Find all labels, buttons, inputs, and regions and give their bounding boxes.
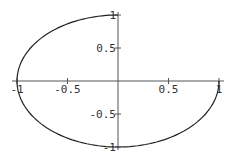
axes xyxy=(12,12,224,150)
x-tick-label: -0.5 xyxy=(54,83,81,96)
y-tick-label: 0.5 xyxy=(96,42,116,55)
x-tick-label: 0.5 xyxy=(159,83,179,96)
parametric-plot: -1-0.50.5110.5-0.5-1 xyxy=(0,0,233,161)
y-tick-label: -0.5 xyxy=(90,108,117,121)
